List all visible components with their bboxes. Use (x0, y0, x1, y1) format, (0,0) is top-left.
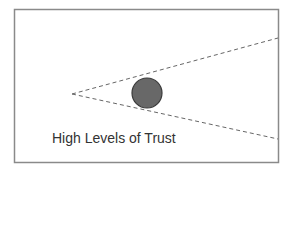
trust-ball-icon (132, 78, 162, 108)
diagram-caption: High Levels of Trust (52, 130, 176, 146)
